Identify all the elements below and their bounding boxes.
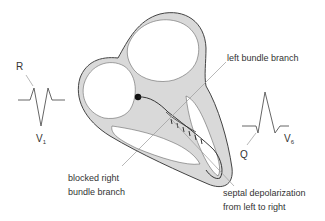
label-left-bundle-branch: left bundle branch [227,51,299,65]
ecg-trace-v6 [242,92,289,133]
heart-walls [78,13,232,187]
diagram-canvas: left bundle branch blocked right bundle … [0,0,325,221]
label-lead-v1: V1 [36,132,46,149]
label-septal-line1: septal depolarization [223,186,306,200]
label-Q-wave: Q [240,148,248,162]
label-blocked-right-line2: bundle branch [68,185,125,199]
label-lead-v6: V6 [284,132,294,149]
ecg-trace-v1 [18,88,65,126]
label-septal-line2: from left to right [223,200,286,214]
label-blocked-right-line1: blocked right [68,171,119,185]
label-R-wave: R [16,60,23,74]
